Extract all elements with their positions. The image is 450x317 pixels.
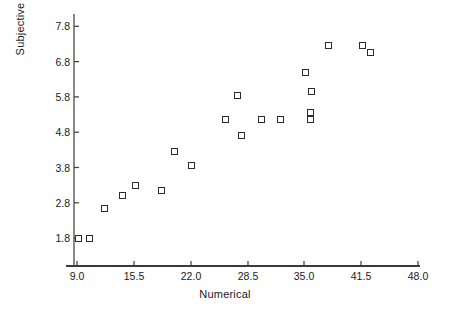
data-point (86, 235, 93, 242)
data-point (158, 187, 165, 194)
y-tick-label: 1.8 (36, 232, 70, 244)
data-point (308, 88, 315, 95)
y-tick-label: 2.8 (36, 197, 70, 209)
x-tick-label: 41.5 (339, 270, 383, 282)
data-point (132, 182, 139, 189)
data-point (101, 205, 108, 212)
data-point (359, 42, 366, 49)
data-point (277, 116, 284, 123)
y-axis-title: Subjective (14, 0, 26, 84)
x-tick-label: 28.5 (226, 270, 270, 282)
data-point (222, 116, 229, 123)
y-tick-marks (74, 26, 79, 238)
data-point (188, 162, 195, 169)
data-point (75, 235, 82, 242)
data-point (258, 116, 265, 123)
x-axis-title: Numerical (0, 288, 450, 300)
data-point (238, 132, 245, 139)
x-tick-label: 35.0 (282, 270, 326, 282)
data-point (367, 49, 374, 56)
data-point (307, 116, 314, 123)
data-point (307, 109, 314, 116)
y-tick-label: 7.8 (36, 20, 70, 32)
data-point (171, 148, 178, 155)
y-tick-label: 4.8 (36, 126, 70, 138)
y-tick-label: 3.8 (36, 162, 70, 174)
data-point (119, 192, 126, 199)
scatter-plot-figure: 7.8 6.8 5.8 4.8 3.8 2.8 1.8 9.0 15.5 22.… (0, 0, 450, 317)
x-tick-label: 48.0 (396, 270, 440, 282)
x-tick-label: 9.0 (55, 270, 99, 282)
x-tick-label: 15.5 (112, 270, 156, 282)
data-point (234, 92, 241, 99)
data-point (302, 69, 309, 76)
data-point (325, 42, 332, 49)
x-tick-label: 22.0 (169, 270, 213, 282)
y-tick-label: 6.8 (36, 56, 70, 68)
y-tick-label: 5.8 (36, 91, 70, 103)
